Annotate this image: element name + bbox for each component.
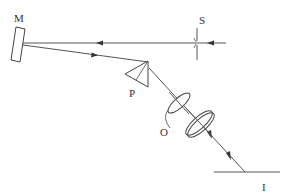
mirror [11, 27, 25, 62]
optical-diagram: M S P O I [0, 0, 293, 195]
slit [194, 28, 197, 60]
mirror-to-prism-beam [23, 45, 148, 62]
arrow-left-icon [207, 41, 214, 46]
slit-label: S [199, 14, 205, 26]
prism-label: P [129, 87, 135, 99]
objective-lenses [165, 90, 217, 141]
mirror-label: M [14, 12, 24, 24]
arrow-left-icon [96, 41, 103, 46]
arrow-right-icon [91, 53, 98, 58]
surface-label: I [262, 181, 266, 193]
objective-label: O [160, 126, 168, 138]
prism [125, 61, 148, 87]
